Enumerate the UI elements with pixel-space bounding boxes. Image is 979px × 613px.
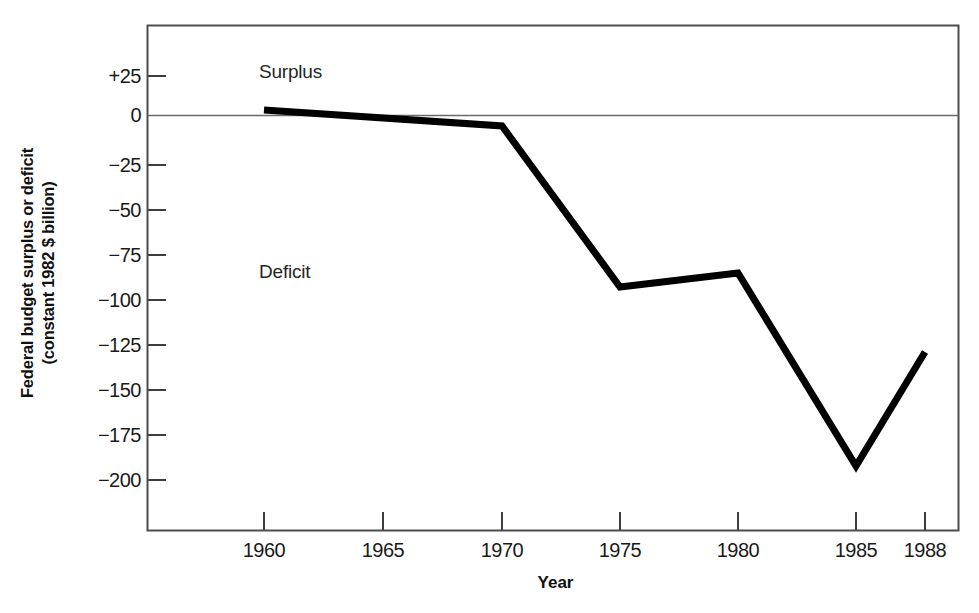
x-axis-title: Year: [0, 573, 979, 593]
x-tick-label-1965: 1965: [338, 540, 428, 560]
x-axis-title-text: Year: [538, 573, 574, 593]
x-tick-label-1980: 1980: [693, 540, 783, 560]
x-tick-label-1988: 1988: [880, 540, 970, 560]
x-tick-label-1960: 1960: [219, 540, 309, 560]
x-tick-label-1975: 1975: [575, 540, 665, 560]
x-axis-tick-labels: 1960 1965 1970 1975 1980 1985 1988: [0, 0, 979, 613]
x-tick-label-1970: 1970: [457, 540, 547, 560]
chart-figure: Federal budget surplus or deficit (const…: [0, 0, 979, 613]
